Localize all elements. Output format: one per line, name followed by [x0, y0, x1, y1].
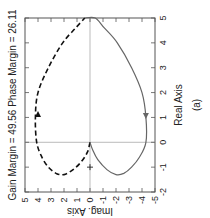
- real-tick-label: 3: [158, 65, 168, 70]
- real-tick-label: -1: [158, 163, 168, 171]
- imag-tick-label: 0: [85, 197, 95, 202]
- series-group: [35, 17, 146, 175]
- markers-group: [35, 111, 149, 170]
- real-tick-label: -2: [158, 188, 168, 196]
- imag-tick-label: 5: [20, 197, 30, 202]
- imag-tick-label: -1: [98, 196, 108, 204]
- real-tick-label: 5: [158, 15, 168, 20]
- imag-tick-label: 4: [33, 197, 43, 202]
- series-negative-frequency: [35, 18, 90, 175]
- imag-tick-label: -5: [150, 196, 160, 204]
- direction-arrow-positive-frequency: [143, 113, 149, 119]
- real-tick-label: 1: [158, 115, 168, 120]
- imag-tick-label: -3: [124, 196, 134, 204]
- real-tick-label: 4: [158, 40, 168, 45]
- series-positive-frequency: [85, 17, 147, 175]
- chart-title: Gain Margin = 49.56 Phase Margin = 26.11: [7, 9, 18, 200]
- imag-tick-label: 2: [59, 197, 69, 202]
- y-axis-label: Imag. Axis: [67, 206, 113, 217]
- real-tick-label: 0: [158, 140, 168, 145]
- imag-tick-label: 1: [72, 197, 82, 202]
- imag-tick-label: -4: [137, 196, 147, 204]
- direction-arrow-negative-frequency: [35, 111, 41, 117]
- imag-tick-label: -2: [111, 196, 121, 204]
- imag-tick-label: 3: [46, 197, 56, 202]
- figure-caption: (a): [191, 99, 202, 111]
- real-tick-label: 2: [158, 90, 168, 95]
- nyquist-chart: -2-1012345543210-1-2-3-4-5 Gain Margin =…: [0, 0, 210, 218]
- x-axis-label: Real Axis: [173, 84, 184, 126]
